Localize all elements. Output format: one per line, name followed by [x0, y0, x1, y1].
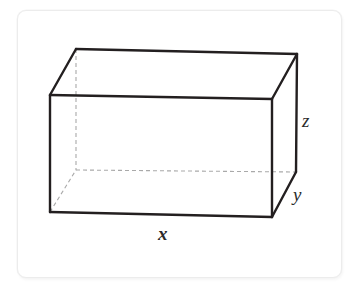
visible-edge-front-top	[50, 95, 272, 99]
axis-label-y: y	[293, 185, 301, 204]
hidden-edge-bottom-left-diagonal	[50, 170, 76, 212]
axis-label-z: z	[302, 111, 309, 130]
rectangular-prism-drawing	[0, 0, 361, 294]
visible-edge-front-bottom	[50, 212, 272, 217]
axis-label-x: x	[158, 224, 168, 243]
visible-edge-top-left-diagonal	[50, 49, 76, 95]
visible-edge-back-right-vertical	[296, 54, 297, 172]
visible-edge-top-right-diagonal	[272, 54, 297, 99]
figure-root: x y z	[0, 0, 361, 294]
hidden-edge-back-bottom	[76, 170, 296, 172]
hidden-edges-group	[50, 49, 296, 212]
visible-edges-group	[50, 49, 297, 217]
visible-edge-top-back	[76, 49, 297, 54]
